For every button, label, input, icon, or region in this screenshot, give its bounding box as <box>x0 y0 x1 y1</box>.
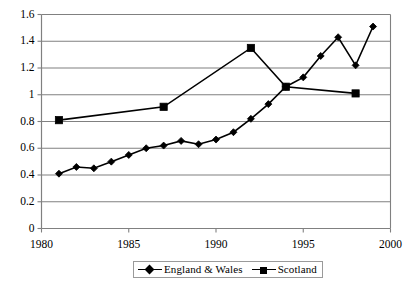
data-point-marker <box>55 170 62 177</box>
diamond-marker-icon <box>138 265 162 275</box>
data-point-marker <box>90 165 97 172</box>
data-point-marker <box>370 23 377 30</box>
chart-legend: England & Wales Scotland <box>133 261 323 278</box>
legend-label-scotland: Scotland <box>278 264 317 275</box>
series-line-1 <box>59 48 356 120</box>
legend-item-england-wales: England & Wales <box>138 264 243 275</box>
y-axis-tick-label: 1.4 <box>20 35 34 47</box>
legend-label-england-wales: England & Wales <box>164 264 243 275</box>
gridlines <box>42 15 391 202</box>
data-series <box>55 23 376 177</box>
data-point-marker <box>352 90 359 97</box>
data-point-marker <box>73 163 80 170</box>
data-point-marker <box>160 103 167 110</box>
data-point-marker <box>55 117 62 124</box>
x-axis-tick-label: 1990 <box>186 239 246 251</box>
data-point-marker <box>125 151 132 158</box>
y-axis-tick-label: 0.4 <box>20 169 34 181</box>
data-point-marker <box>213 136 220 143</box>
y-axis-tick-label: 1.6 <box>20 9 34 21</box>
data-point-marker <box>143 145 150 152</box>
x-axis-tick-label: 1985 <box>99 239 159 251</box>
data-point-marker <box>195 141 202 148</box>
data-point-marker <box>108 158 115 165</box>
square-marker-icon <box>252 265 276 275</box>
x-axis-tick-label: 1980 <box>12 239 72 251</box>
y-axis-tick-label: 0.8 <box>20 116 34 128</box>
y-axis-tick-label: 0.6 <box>20 142 34 154</box>
series-line-0 <box>59 27 373 174</box>
x-axis-tick-label: 1995 <box>273 239 333 251</box>
y-axis-tick-label: 1.2 <box>20 62 34 74</box>
legend-item-scotland: Scotland <box>252 264 317 275</box>
y-axis-tick-label: 0.2 <box>20 196 34 208</box>
x-axis-ticks <box>42 229 391 233</box>
y-axis-tick-label: 1 <box>29 89 35 101</box>
line-chart: 1.61.41.210.80.60.40.20 1980198519901995… <box>0 0 412 294</box>
data-point-marker <box>178 137 185 144</box>
data-point-marker <box>247 44 254 51</box>
y-axis-tick-label: 0 <box>29 223 35 235</box>
x-axis-tick-label: 2000 <box>361 239 412 251</box>
data-point-marker <box>282 83 289 90</box>
